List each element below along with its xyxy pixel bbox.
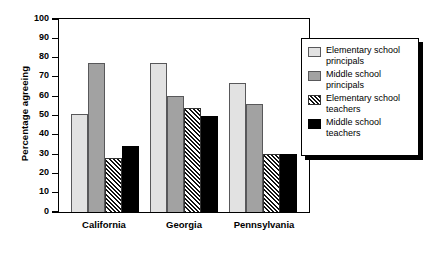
x-axis-tick-label: Georgia — [144, 219, 224, 239]
legend-swatch — [308, 119, 321, 129]
legend-label: Middle school teachers — [326, 117, 413, 138]
y-axis-tick-mark — [52, 173, 59, 174]
x-axis-tick-label: California — [64, 219, 144, 239]
y-axis-tick-label: 80 — [23, 51, 49, 61]
y-axis-tick-label: 10 — [23, 186, 49, 196]
bar — [280, 154, 297, 212]
plot-area: 0102030405060708090100 — [58, 18, 310, 213]
y-axis-tick-mark — [52, 211, 59, 212]
legend-swatch — [308, 47, 321, 57]
bar — [88, 63, 105, 212]
legend-swatch — [308, 95, 321, 105]
legend-item: Elementary school teachers — [308, 93, 413, 114]
y-axis-tick-label: 90 — [23, 32, 49, 42]
y-axis-tick-mark — [52, 57, 59, 58]
y-axis-tick-mark — [52, 154, 59, 155]
bar-chart-figure: Percentage agreeing 01020304050607080901… — [0, 0, 430, 262]
y-axis-tick-label: 0 — [23, 206, 49, 216]
bar — [167, 96, 184, 212]
legend-label: Elementary school teachers — [326, 93, 413, 114]
y-axis-tick-mark — [52, 134, 59, 135]
legend-swatch — [308, 71, 321, 81]
y-axis-tick-label: 50 — [23, 109, 49, 119]
bar — [71, 114, 88, 212]
legend-item: Middle school principals — [308, 69, 413, 90]
bar — [246, 104, 263, 212]
bar — [184, 108, 201, 212]
bar — [201, 116, 218, 213]
bar-group — [229, 19, 297, 212]
y-axis-tick-label: 60 — [23, 90, 49, 100]
bar-groups — [59, 19, 309, 212]
x-axis-tick-labels: CaliforniaGeorgiaPennsylvania — [58, 219, 310, 239]
bar — [229, 83, 246, 212]
y-axis-tick-label: 40 — [23, 128, 49, 138]
y-axis-tick-label: 100 — [23, 13, 49, 23]
y-axis-tick-mark — [52, 76, 59, 77]
legend-box: Elementary school principalsMiddle schoo… — [301, 38, 419, 156]
y-axis-tick-mark — [52, 38, 59, 39]
y-axis-tick-mark — [52, 115, 59, 116]
bar — [150, 63, 167, 212]
legend-label: Elementary school principals — [326, 45, 413, 66]
y-axis-tick-label: 70 — [23, 70, 49, 80]
y-axis-tick-mark — [52, 192, 59, 193]
y-axis-tick-label: 20 — [23, 167, 49, 177]
y-axis-tick-mark — [52, 96, 59, 97]
x-axis-tick-label: Pennsylvania — [224, 219, 304, 239]
bar — [263, 154, 280, 212]
bar — [105, 158, 122, 212]
legend-item: Elementary school principals — [308, 45, 413, 66]
bar-group — [71, 19, 139, 212]
legend-label: Middle school principals — [326, 69, 413, 90]
bar — [122, 146, 139, 212]
y-axis-tick-mark — [52, 18, 59, 19]
bar-group — [150, 19, 218, 212]
y-axis-tick-label: 30 — [23, 148, 49, 158]
legend-item: Middle school teachers — [308, 117, 413, 138]
